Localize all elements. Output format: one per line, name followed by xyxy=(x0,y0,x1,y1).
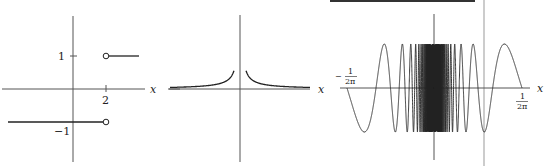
y-tick-label-neg1: −1 xyxy=(54,125,70,138)
left-branch-curve xyxy=(170,71,234,88)
x-tick-label-pos: 1 2π xyxy=(516,92,528,111)
x-tick-label-neg: − 1 2π xyxy=(335,67,357,86)
svg-text:−: − xyxy=(335,72,342,81)
right-branch-curve xyxy=(246,71,310,88)
svg-text:1: 1 xyxy=(520,92,525,101)
svg-text:2π: 2π xyxy=(345,77,355,86)
y-tick-label-1: 1 xyxy=(58,50,65,63)
step-function-plot: x 1 2 −1 xyxy=(2,16,180,162)
figure-canvas: x 1 2 −1 x x − 1 2π xyxy=(0,0,553,166)
svg-text:1: 1 xyxy=(348,67,353,76)
svg-text:2π: 2π xyxy=(517,102,527,111)
open-circle-lower xyxy=(103,119,109,125)
x-tick-label-2: 2 xyxy=(102,94,109,107)
oscillating-plot: x − 1 2π 1 2π xyxy=(330,0,544,166)
x-axis-label: x xyxy=(537,82,544,95)
x-axis-label: x xyxy=(318,83,325,96)
open-circle-upper xyxy=(103,53,109,59)
x-axis-label: x xyxy=(150,83,157,96)
inverse-abs-plot: x xyxy=(168,15,325,162)
top-bar xyxy=(330,0,475,2)
